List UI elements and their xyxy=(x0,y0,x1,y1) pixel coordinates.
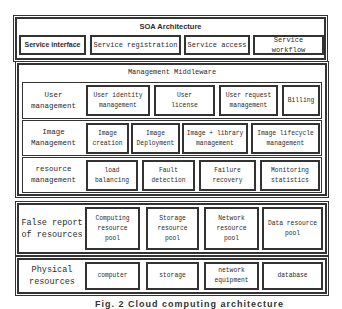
user-identity-management-box: User identity management xyxy=(86,85,150,116)
user-request-management-box: User request management xyxy=(219,85,278,116)
service-registration-box: Service registration xyxy=(90,35,181,55)
management-middleware-layer: Management Middleware User management Us… xyxy=(17,63,327,196)
computer-box: computer xyxy=(85,262,140,290)
virtual-resources-layer: False report of resources Computing reso… xyxy=(17,203,327,254)
row-label: User management xyxy=(23,83,84,118)
fault-detection-box: Fault detection xyxy=(142,160,195,191)
resource-management-row: resource management load balancing Fault… xyxy=(22,157,322,193)
figure-caption: Fig. 2 Cloud computing architecture xyxy=(95,299,284,309)
physical-resources-layer: Physical resources computer storage netw… xyxy=(17,258,327,294)
row-label: resource management xyxy=(23,158,84,192)
soa-architecture-layer: SOA Architecture Service interface Servi… xyxy=(15,17,326,60)
image-management-row: Image Management Image creation Image De… xyxy=(22,120,322,156)
data-resource-pool-box: Data resource pool xyxy=(262,207,323,250)
image-deployment-box: Image Deployment xyxy=(131,123,180,154)
image-lifecycle-management-box: Image lifecycle management xyxy=(251,123,320,154)
service-access-box: Service access xyxy=(184,35,250,55)
network-equipment-box: network equipment xyxy=(204,262,259,290)
storage-resource-pool-box: Storage resource pool xyxy=(146,207,199,250)
failure-recovery-box: Failure recovery xyxy=(199,160,256,191)
soa-title: SOA Architecture xyxy=(17,22,324,31)
storage-box: storage xyxy=(146,262,199,290)
virtual-resources-label: False report of resources xyxy=(19,205,85,252)
service-interface-box: Service interface xyxy=(19,35,86,55)
billing-box: Billing xyxy=(282,85,320,116)
load-balancing-box: load balancing xyxy=(86,160,138,191)
image-library-management-box: Image + library management xyxy=(182,123,248,154)
network-resource-pool-box: Network resource pool xyxy=(204,207,259,250)
user-license-box: User license xyxy=(154,85,215,116)
image-creation-box: Image creation xyxy=(86,123,129,154)
monitoring-statistics-box: Monitoring statistics xyxy=(260,160,320,191)
user-management-row: User management User identity management… xyxy=(22,82,322,119)
service-workflow-box: Service workflow xyxy=(253,35,324,55)
middleware-title: Management Middleware xyxy=(19,68,325,76)
row-label: Image Management xyxy=(23,121,84,155)
computing-resource-pool-box: Computing resource pool xyxy=(85,207,140,250)
physical-resources-label: Physical resources xyxy=(19,260,85,292)
database-box: database xyxy=(262,262,323,290)
